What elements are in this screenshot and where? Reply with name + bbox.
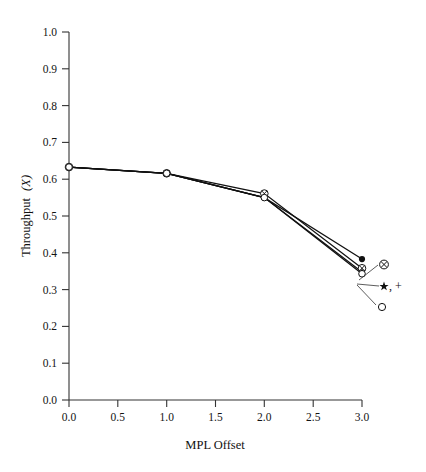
data-point-open-circle-2 (261, 194, 268, 201)
x-tick-label: 2.0 (257, 411, 272, 423)
series-line-circled-cross (69, 167, 362, 268)
legend-entry-star-plus-label: , + (389, 279, 402, 293)
series-line-plus (69, 167, 362, 259)
legend-entry-star-plus[interactable]: , + (379, 279, 402, 293)
x-axis-ticks: 0.0 0.5 1.0 1.5 2.0 2.5 3.0 (62, 400, 370, 423)
x-axis-title: MPL Offset (185, 438, 245, 452)
series-layer (69, 167, 362, 274)
chart-figure: 0.0 0.1 0.2 0.3 0.4 0.5 0.6 0.7 0.8 0.9 … (0, 0, 426, 472)
y-tick-label: 0.9 (43, 63, 58, 75)
y-tick-label: 0.8 (43, 100, 58, 112)
y-axis-title-text: Throughput (19, 198, 33, 258)
marker-layer (65, 163, 366, 277)
data-point-plus-3 (359, 256, 365, 262)
legend-leader-line (357, 285, 376, 305)
axes-group (69, 32, 362, 400)
legend-entry-circled-cross[interactable] (380, 260, 389, 269)
legend-leader-line (357, 284, 379, 286)
x-tick-label: 2.5 (306, 411, 321, 423)
y-tick-label: 0.6 (43, 173, 58, 185)
x-tick-label: 1.0 (160, 411, 175, 423)
y-tick-label: 1.0 (43, 26, 58, 38)
series-line-star (69, 167, 362, 272)
throughput-line-chart: 0.0 0.1 0.2 0.3 0.4 0.5 0.6 0.7 0.8 0.9 … (0, 0, 426, 472)
data-point-open-circle-0 (66, 164, 73, 171)
y-tick-label: 0.1 (43, 357, 58, 369)
y-axis-title: Throughput (X) (19, 175, 33, 257)
y-axis-ticks: 0.0 0.1 0.2 0.3 0.4 0.5 0.6 0.7 0.8 0.9 … (43, 26, 69, 406)
y-tick-label: 0.7 (43, 136, 58, 148)
x-tick-label: 3.0 (355, 411, 370, 423)
y-tick-label: 0.3 (43, 284, 58, 296)
y-tick-label: 0.2 (43, 320, 58, 332)
star-icon (379, 282, 388, 291)
y-axis-title-symbol: (X) (19, 175, 33, 191)
legend-entry-open-circle[interactable] (378, 303, 385, 310)
x-tick-label: 1.5 (208, 411, 223, 423)
y-tick-label: 0.0 (43, 394, 58, 406)
open-circle-icon (378, 303, 385, 310)
y-tick-label: 0.5 (43, 210, 58, 222)
data-point-open-circle-1 (163, 170, 170, 177)
x-tick-label: 0.5 (111, 411, 126, 423)
y-axis-title-group: Throughput (X) (19, 175, 33, 257)
x-tick-label: 0.0 (62, 411, 77, 423)
y-tick-label: 0.4 (43, 247, 58, 259)
